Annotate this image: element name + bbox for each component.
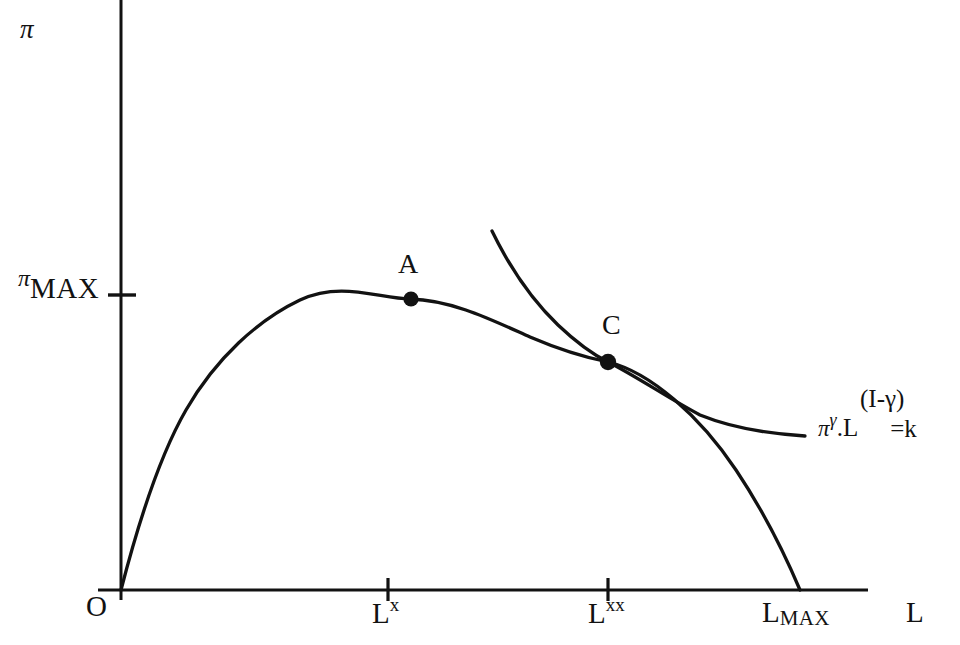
x-tick-label-l-xx: Lxx [588,596,625,628]
point-a-label: A [398,250,418,278]
profit-maximization-figure: π πMAX O Lx Lxx LMAX L A C (I-γ) πγ.L=k [0,0,960,645]
dot-l: .L [837,415,859,442]
isoprofit-expression: πγ.L=k [818,412,917,442]
y-tick-label-pi-max: πMAX [18,268,99,303]
chart-canvas [0,0,960,645]
pi-symbol: π [18,265,30,291]
point-c-marker [600,354,616,370]
l-base: L [762,596,780,628]
l-superscript: xx [606,594,625,615]
l-base: L [372,597,390,629]
isoprofit-curve [492,231,805,436]
origin-label: O [86,592,107,621]
l-base: L [588,597,606,629]
gamma-exponent: γ [830,410,837,430]
pi-symbol: π [818,417,830,442]
l-superscript: x [390,594,400,615]
equals-k: =k [890,415,917,442]
point-c-label: C [602,311,621,339]
max-subscript: MAX [780,606,830,630]
point-a-marker [403,291,418,306]
x-tick-label-l-max: LMAX [762,598,830,627]
isoprofit-exponent: (I-γ) [860,386,917,412]
x-axis-label: L [906,598,924,627]
max-subscript: MAX [30,272,99,304]
profit-curve [121,291,800,590]
isoprofit-equation-label: (I-γ) πγ.L=k [818,386,917,442]
y-axis-label: π [20,16,34,43]
x-tick-label-l-x: Lx [372,596,399,628]
